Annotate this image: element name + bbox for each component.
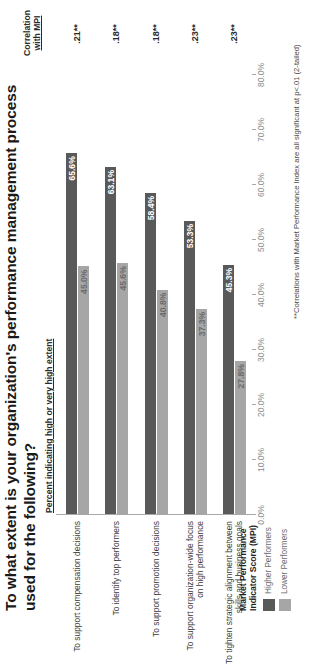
category-label-line: To support compensation decisions bbox=[72, 521, 82, 668]
bar-value-label: 27.8% bbox=[236, 364, 246, 388]
legend-item-higher-performers: Higher Performers bbox=[263, 421, 275, 611]
page-title: To what extent is your organization's pe… bbox=[2, 7, 40, 611]
bar-lower-performers: 40.8% bbox=[157, 290, 168, 514]
correlation-value: .23** bbox=[190, 11, 200, 57]
bar-higher-performers: 45.3% bbox=[223, 265, 234, 514]
bar-lower-performers: 37.3% bbox=[196, 309, 207, 514]
legend-title-line2: Indicator Score (MPI) bbox=[248, 525, 258, 611]
bar-value-label: 53.3% bbox=[185, 224, 195, 248]
bar-value-label: 40.8% bbox=[158, 293, 168, 317]
bar-value-label: 45.3% bbox=[224, 268, 234, 292]
legend-label-higher-performers: Higher Performers bbox=[264, 527, 273, 594]
correlation-value: .18** bbox=[151, 11, 161, 57]
axis-tick-label: 40.0% bbox=[256, 283, 266, 307]
percent-column-header: Percent indicating high or very high ext… bbox=[44, 339, 54, 513]
legend-title: Market Performance Indicator Score (MPI) bbox=[238, 421, 259, 611]
page-title-line2: used for the following? bbox=[21, 7, 40, 611]
axis-tick-label: 20.0% bbox=[256, 393, 266, 417]
category-label: To support organization-wide focuson hig… bbox=[185, 521, 205, 668]
category-label-line: To support organization-wide focus bbox=[185, 521, 195, 668]
bar-value-label: 65.6% bbox=[67, 156, 77, 180]
category-label-line: To identify top performers bbox=[111, 521, 121, 668]
correlation-header-line2: with MPI bbox=[32, 16, 42, 51]
category-label-line: To support promotion decisions bbox=[151, 521, 161, 668]
bar-value-label: 37.3% bbox=[197, 312, 207, 336]
footnote: **Correlations with Market Performance I… bbox=[292, 7, 301, 319]
bar-value-label: 63.1% bbox=[106, 170, 116, 194]
value-axis-line bbox=[56, 514, 252, 515]
bar-higher-performers: 58.4% bbox=[145, 193, 156, 514]
bar-value-label: 58.4% bbox=[146, 196, 156, 220]
bar-value-label: 45.6% bbox=[118, 266, 128, 290]
page-title-line1: To what extent is your organization's pe… bbox=[2, 85, 19, 611]
axis-tick-label: 70.0% bbox=[256, 118, 266, 142]
axis-tick-label: 50.0% bbox=[256, 228, 266, 252]
legend-label-lower-performers: Lower Performers bbox=[280, 529, 289, 594]
correlation-value: .21** bbox=[72, 11, 82, 57]
category-label: To support compensation decisions bbox=[72, 521, 82, 668]
bar-chart-plot-area: 0.0%10.0%20.0%30.0%40.0%50.0%60.0%70.0%8… bbox=[56, 75, 252, 515]
bar-lower-performers: 45.6% bbox=[117, 263, 128, 514]
category-label-line: on high performance bbox=[195, 521, 205, 668]
category-label: To support promotion decisions bbox=[151, 521, 161, 668]
legend-swatch-lower-performers bbox=[279, 599, 291, 611]
legend-item-lower-performers: Lower Performers bbox=[279, 421, 291, 611]
axis-tick-label: 60.0% bbox=[256, 173, 266, 197]
bar-higher-performers: 63.1% bbox=[105, 167, 116, 514]
bar-higher-performers: 65.6% bbox=[66, 153, 77, 514]
category-label: To identify top performers bbox=[111, 521, 121, 668]
correlation-value: .18** bbox=[111, 11, 121, 57]
legend-swatch-higher-performers bbox=[263, 599, 275, 611]
bar-value-label: 45.0% bbox=[79, 270, 89, 294]
bar-lower-performers: 45.0% bbox=[78, 267, 89, 515]
category-label-line: To tighten strategic alignment between bbox=[224, 521, 234, 668]
legend-title-line1: Market Performance bbox=[238, 528, 248, 611]
axis-tick-label: 80.0% bbox=[256, 63, 266, 87]
correlation-header-line1: Correlation bbox=[22, 10, 32, 56]
correlation-value: .23** bbox=[229, 11, 239, 57]
bar-higher-performers: 53.3% bbox=[184, 221, 195, 514]
correlation-column-header: Correlation with MPI bbox=[22, 7, 43, 59]
chart-legend: Market Performance Indicator Score (MPI)… bbox=[238, 421, 291, 611]
axis-tick-label: 30.0% bbox=[256, 338, 266, 362]
